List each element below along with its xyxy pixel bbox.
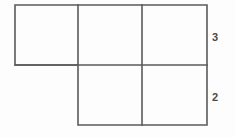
grid-figure — [0, 0, 235, 137]
bottom-row-dimension-label: 2 — [212, 92, 218, 103]
top-row-dimension-label: 3 — [212, 32, 218, 43]
diagram-canvas: 3 2 — [0, 0, 235, 137]
figure-background — [0, 0, 235, 137]
